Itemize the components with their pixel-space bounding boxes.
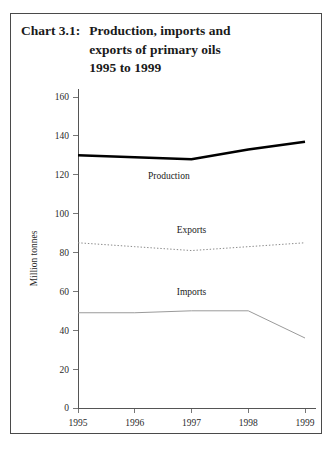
- line-chart-canvas: 020406080100120140160 199519961997199819…: [11, 14, 323, 435]
- plot-area: 020406080100120140160 199519961997199819…: [11, 14, 323, 435]
- y-tick-label: 20: [60, 365, 70, 375]
- series-line-imports: [78, 311, 305, 338]
- y-tick-label: 120: [55, 170, 70, 180]
- y-axis-ticks: 020406080100120140160: [55, 92, 78, 413]
- x-tick-label: 1997: [182, 418, 201, 428]
- y-axis-title: Million tonnes: [29, 230, 39, 286]
- series-line-exports: [78, 243, 305, 251]
- y-tick-label: 0: [64, 403, 69, 413]
- x-tick-label: 1998: [239, 418, 258, 428]
- series-line-production: [78, 142, 305, 159]
- y-tick-label: 160: [55, 92, 70, 102]
- series-label-exports: Exports: [177, 225, 207, 235]
- series-annotations: ProductionExportsImports: [148, 171, 207, 298]
- x-axis-ticks: 19951996199719981999: [69, 408, 315, 428]
- series-label-imports: Imports: [177, 287, 207, 297]
- y-tick-label: 80: [60, 248, 70, 258]
- x-tick-label: 1995: [69, 418, 88, 428]
- y-tick-label: 40: [60, 326, 70, 336]
- x-tick-label: 1999: [296, 418, 315, 428]
- series-label-production: Production: [148, 171, 190, 181]
- y-tick-label: 140: [55, 131, 70, 141]
- chart-figure: Chart 3.1: Production, imports and expor…: [10, 13, 322, 434]
- y-tick-label: 100: [55, 209, 70, 219]
- x-tick-label: 1996: [125, 418, 144, 428]
- y-tick-label: 60: [60, 287, 70, 297]
